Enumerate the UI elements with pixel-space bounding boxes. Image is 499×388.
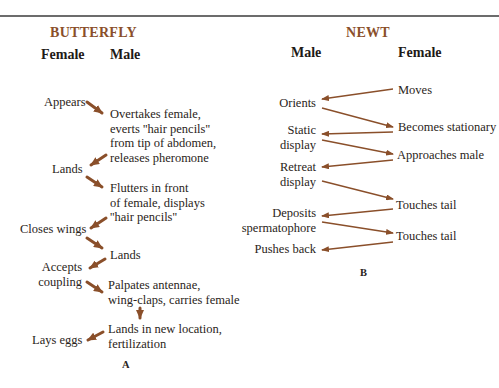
arrow-icon: [322, 242, 393, 250]
arrow-icon: [90, 259, 105, 268]
arrow-icon: [87, 238, 102, 248]
arrow-icon: [322, 209, 393, 216]
arrow-icon: [88, 332, 103, 340]
arrow-icon: [322, 181, 393, 199]
arrow-icon: [322, 140, 393, 154]
arrow-icon: [322, 89, 393, 99]
arrow-icon: [322, 132, 393, 134]
arrow-icon: [322, 160, 393, 167]
arrow-icon: [91, 218, 106, 228]
arrow-icon: [87, 177, 102, 187]
arrow-icon: [87, 102, 102, 113]
arrows-layer: [0, 0, 499, 388]
arrow-icon: [322, 222, 393, 233]
arrow-icon: [87, 282, 102, 292]
arrow-icon: [322, 108, 393, 127]
arrow-icon: [91, 155, 106, 165]
